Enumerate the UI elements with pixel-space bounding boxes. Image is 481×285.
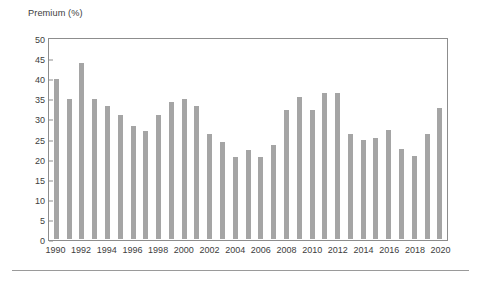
- bar-slot: [344, 40, 357, 239]
- x-tick-label: 2008: [277, 245, 297, 255]
- bar-slot: [63, 40, 76, 239]
- x-tick-label: 1998: [148, 245, 168, 255]
- x-tick-label: 1992: [71, 245, 91, 255]
- x-tick-label: 2000: [174, 245, 194, 255]
- y-tick-label: 50: [35, 35, 45, 45]
- bar-slot: [331, 40, 344, 239]
- bar: [143, 131, 148, 239]
- x-tick-label: 2014: [354, 245, 374, 255]
- plot-area: 50454035302520151050: [48, 38, 448, 241]
- bar-slot: [293, 40, 306, 239]
- bar-slot: [370, 40, 383, 239]
- bar-slot: [255, 40, 268, 239]
- bar-slot: [216, 40, 229, 239]
- bar: [361, 140, 366, 240]
- x-tick-label: 2018: [405, 245, 425, 255]
- bar: [118, 115, 123, 239]
- bar-slot: [152, 40, 165, 239]
- bar: [335, 93, 340, 239]
- bar-slot: [139, 40, 152, 239]
- x-tick-label: 2004: [225, 245, 245, 255]
- bar: [246, 150, 251, 239]
- bar-slot: [395, 40, 408, 239]
- y-axis-title: Premium (%): [28, 8, 83, 18]
- x-tick-label: 1994: [97, 245, 117, 255]
- bar-slot: [127, 40, 140, 239]
- y-tick-label: 40: [35, 75, 45, 85]
- bar: [322, 93, 327, 239]
- bar-slot: [267, 40, 280, 239]
- bar: [348, 134, 353, 239]
- bar-slot: [50, 40, 63, 239]
- bar-slot: [88, 40, 101, 239]
- bar: [373, 138, 378, 239]
- y-tick-label: 10: [35, 196, 45, 206]
- bar-slot: [114, 40, 127, 239]
- bar-slot: [178, 40, 191, 239]
- bar: [169, 102, 174, 239]
- bar: [79, 63, 84, 239]
- bar: [92, 99, 97, 239]
- y-tick-mark: [49, 241, 53, 242]
- chart-figure: Premium (%) 50454035302520151050 1990199…: [0, 0, 481, 285]
- bar: [425, 134, 430, 239]
- bar-slot: [421, 40, 434, 239]
- bar: [156, 115, 161, 239]
- y-tick-label: 30: [35, 115, 45, 125]
- bar-slot: [101, 40, 114, 239]
- bar-series: [50, 40, 446, 239]
- x-tick-label: 2006: [251, 245, 271, 255]
- bar-slot: [242, 40, 255, 239]
- bar: [386, 130, 391, 239]
- y-tick-label: 45: [35, 55, 45, 65]
- x-tick-label: 1990: [45, 245, 65, 255]
- bar: [182, 99, 187, 239]
- x-tick-label: 2002: [199, 245, 219, 255]
- bar: [131, 126, 136, 239]
- x-tick-label: 2010: [302, 245, 322, 255]
- bar: [399, 149, 404, 239]
- bar-slot: [433, 40, 446, 239]
- y-tick-label: 25: [35, 136, 45, 146]
- bar-slot: [280, 40, 293, 239]
- bar-slot: [165, 40, 178, 239]
- x-tick-label: 2012: [328, 245, 348, 255]
- bar-slot: [357, 40, 370, 239]
- bar-slot: [203, 40, 216, 239]
- bar: [207, 134, 212, 239]
- y-tick-label: 0: [40, 236, 45, 246]
- bar: [412, 156, 417, 239]
- bar-slot: [191, 40, 204, 239]
- bar-slot: [408, 40, 421, 239]
- footer-divider: [12, 270, 469, 271]
- x-tick-label: 2016: [379, 245, 399, 255]
- x-axis-labels: 1990199219941996199820002002200420062008…: [48, 245, 448, 261]
- bar: [105, 106, 110, 239]
- bar-slot: [318, 40, 331, 239]
- bar-slot: [229, 40, 242, 239]
- y-tick-label: 5: [40, 216, 45, 226]
- bar: [194, 106, 199, 239]
- bar: [310, 110, 315, 239]
- bar-slot: [76, 40, 89, 239]
- bar: [297, 97, 302, 239]
- y-tick-label: 35: [35, 95, 45, 105]
- bar: [271, 145, 276, 239]
- bar: [258, 157, 263, 239]
- bar-slot: [306, 40, 319, 239]
- bar: [437, 108, 442, 239]
- bar: [233, 157, 238, 239]
- bar: [220, 142, 225, 239]
- y-tick-label: 15: [35, 176, 45, 186]
- y-tick-label: 20: [35, 156, 45, 166]
- bar-slot: [382, 40, 395, 239]
- bar: [54, 79, 59, 239]
- bar: [284, 110, 289, 239]
- bar: [67, 99, 72, 239]
- x-tick-label: 2020: [431, 245, 451, 255]
- x-tick-label: 1996: [122, 245, 142, 255]
